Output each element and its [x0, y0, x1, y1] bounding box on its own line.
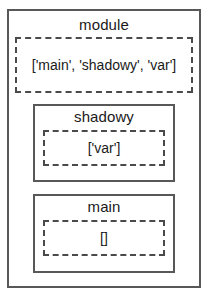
- module-namespace-box: ['main', 'shadowy', 'var']: [15, 37, 193, 93]
- shadowy-namespace-list: ['var']: [88, 140, 121, 157]
- main-namespace-box: []: [43, 220, 165, 256]
- module-scope-frame: module ['main', 'shadowy', 'var'] shadow…: [7, 9, 201, 288]
- module-scope-title: module: [9, 14, 199, 34]
- shadowy-scope-frame: shadowy ['var']: [33, 104, 175, 182]
- module-namespace-list: ['main', 'shadowy', 'var']: [32, 57, 176, 74]
- shadowy-namespace-box: ['var']: [43, 130, 165, 166]
- main-scope-title: main: [35, 196, 173, 216]
- shadowy-scope-title: shadowy: [35, 106, 173, 126]
- main-scope-frame: main []: [33, 194, 175, 273]
- main-namespace-list: []: [100, 230, 108, 247]
